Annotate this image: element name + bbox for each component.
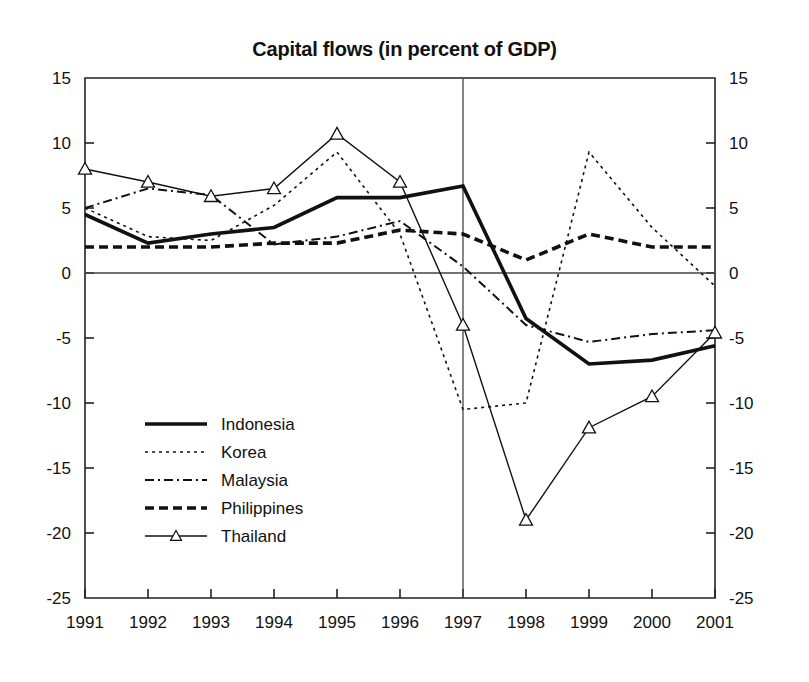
series-layer: [79, 127, 722, 525]
x-tick-label-1998: 1998: [507, 613, 545, 632]
plot-frame: [85, 78, 715, 598]
x-tick-label-1999: 1999: [570, 613, 608, 632]
legend-label-korea: Korea: [221, 443, 267, 462]
y-tick-label-right: 15: [729, 69, 748, 88]
legend-label-philippines: Philippines: [221, 499, 303, 518]
y-tick-label-right: 5: [729, 199, 738, 218]
y-tick-label-right: -10: [729, 394, 754, 413]
x-tick-label-1997: 1997: [444, 613, 482, 632]
y-tick-label-right: -25: [729, 589, 754, 608]
marker-triangle-thailand: [79, 163, 92, 175]
y-tick-label-right: -20: [729, 524, 754, 543]
x-tick-label-1992: 1992: [129, 613, 167, 632]
y-tick-label-left: -5: [56, 329, 71, 348]
y-tick-label-left: -25: [46, 589, 71, 608]
y-tick-label-left: -20: [46, 524, 71, 543]
y-tick-label-right: -5: [729, 329, 744, 348]
chart-plot-area: 151050-5-10-15-20-25 151050-5-10-15-20-2…: [0, 0, 809, 682]
marker-triangle-thailand: [520, 514, 533, 526]
x-tick-label-1994: 1994: [255, 613, 293, 632]
y-tick-label-left: -10: [46, 394, 71, 413]
y-tick-label-left: 15: [52, 69, 71, 88]
x-tick-label-2001: 2001: [696, 613, 734, 632]
series-line-korea: [85, 152, 715, 409]
y-tick-label-left: -15: [46, 459, 71, 478]
y-tick-label-right: -15: [729, 459, 754, 478]
marker-triangle-thailand: [331, 127, 344, 139]
x-axis-labels: 1991199219931994199519961997199819992000…: [66, 613, 734, 632]
marker-triangle-thailand: [709, 326, 722, 338]
x-tick-label-1995: 1995: [318, 613, 356, 632]
x-tick-label-1996: 1996: [381, 613, 419, 632]
capital-flows-chart: Capital flows (in percent of GDP) 151050…: [0, 0, 809, 682]
y-axis-right-labels: 151050-5-10-15-20-25: [729, 69, 754, 608]
y-tick-label-left: 0: [62, 264, 71, 283]
legend-label-malaysia: Malaysia: [221, 471, 289, 490]
marker-triangle-thailand: [394, 176, 407, 188]
marker-triangle-thailand: [457, 319, 470, 331]
series-line-malaysia: [85, 189, 715, 342]
y-tick-label-right: 10: [729, 134, 748, 153]
marker-triangle-thailand: [583, 421, 596, 433]
reference-lines-layer: [85, 78, 715, 598]
legend-label-thailand: Thailand: [221, 527, 286, 546]
y-tick-label-left: 5: [62, 199, 71, 218]
x-tick-label-1991: 1991: [66, 613, 104, 632]
axes-layer: [85, 78, 715, 598]
chart-legend: IndonesiaKoreaMalaysiaPhilippinesThailan…: [145, 415, 303, 546]
legend-label-indonesia: Indonesia: [221, 415, 295, 434]
series-line-indonesia: [85, 186, 715, 364]
x-tick-label-1993: 1993: [192, 613, 230, 632]
y-tick-label-right: 0: [729, 264, 738, 283]
x-tick-label-2000: 2000: [633, 613, 671, 632]
y-tick-label-left: 10: [52, 134, 71, 153]
y-axis-left-labels: 151050-5-10-15-20-25: [46, 69, 71, 608]
series-line-philippines: [85, 230, 715, 260]
